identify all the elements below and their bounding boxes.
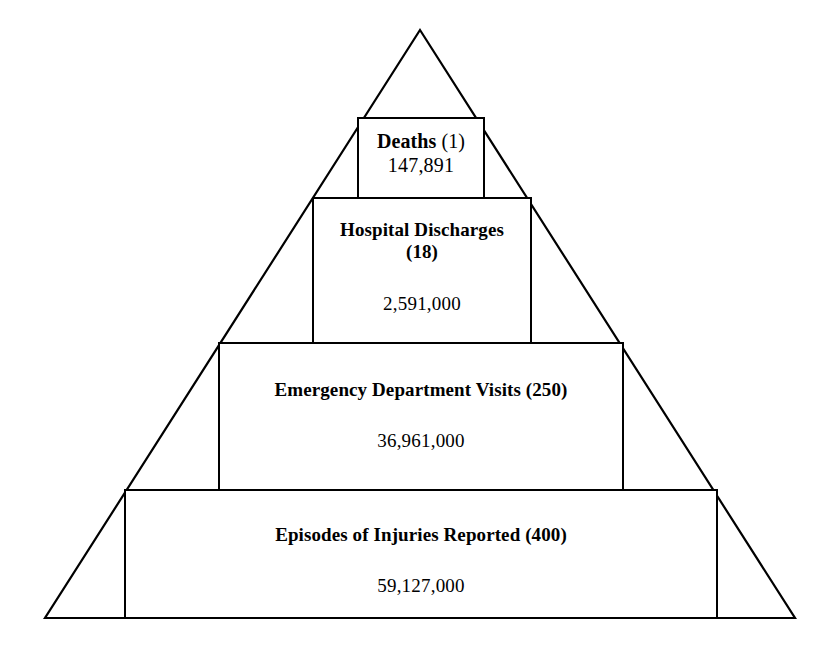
tier-box-hospital-discharges	[313, 198, 531, 343]
tier-box-episodes-of-injuries-reported	[125, 490, 717, 618]
injury-pyramid-figure: Deaths (1) 147,891 Hospital Discharges (…	[0, 0, 832, 655]
tier-box-emergency-department-visits	[219, 343, 623, 490]
pyramid-diagram-graphics	[0, 0, 832, 655]
tier-box-deaths	[358, 118, 484, 198]
